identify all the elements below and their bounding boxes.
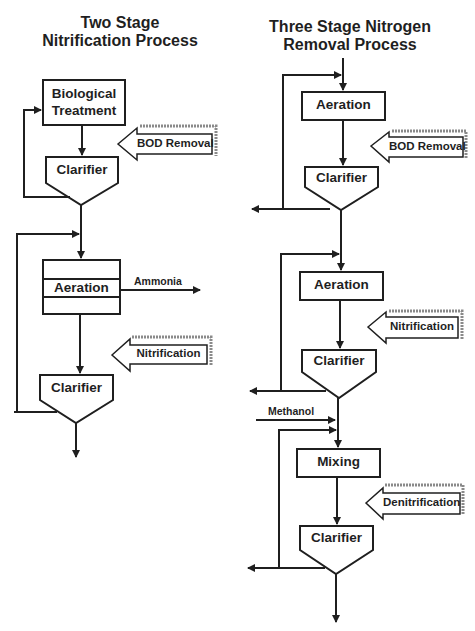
ammonia-label: Ammonia — [134, 275, 182, 287]
clarifier-right-1-label: Clarifier — [305, 170, 378, 185]
aeration-right-1-label: Aeration — [302, 97, 385, 112]
nitrification-right-label: Nitrification — [386, 320, 458, 332]
nitrification-left-label: Nitrification — [130, 347, 207, 359]
treatment-label-line2: Treatment — [43, 102, 125, 119]
aeration-right-2-label: Aeration — [300, 277, 383, 292]
clarifier-right-3-label: Clarifier — [300, 530, 373, 545]
biological-label-line1: Biological — [43, 85, 125, 102]
aeration-left-label: Aeration — [43, 280, 120, 295]
bod-removal-right-label: BOD Removal — [389, 140, 463, 152]
mixing-label: Mixing — [297, 454, 380, 469]
clarifier-2-left-label: Clarifier — [40, 380, 113, 395]
methanol-label: Methanol — [268, 405, 314, 417]
bod-removal-left-label: BOD Removal — [137, 137, 212, 149]
biological-treatment-label: Biological Treatment — [43, 85, 125, 119]
clarifier-right-2-label: Clarifier — [302, 353, 376, 368]
clarifier-1-left-label: Clarifier — [46, 162, 118, 177]
denitrification-right-label: Denitrification — [383, 496, 460, 508]
